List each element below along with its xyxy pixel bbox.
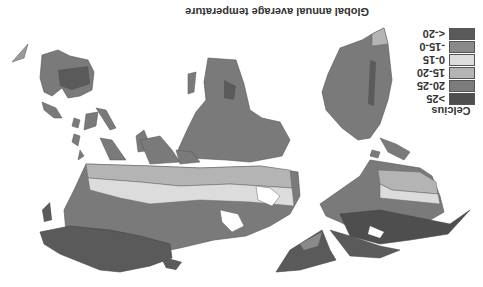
- legend-swatch: [449, 93, 475, 105]
- legend-label: -15-0: [395, 40, 445, 53]
- legend-swatch: [449, 80, 475, 92]
- eurasia-region: [40, 164, 300, 272]
- greenland-region: [276, 230, 336, 272]
- legend-unit-label: Celcius: [426, 105, 476, 117]
- legend-item-0-to-15: 0-15: [383, 54, 475, 66]
- legend-swatch: [449, 67, 475, 79]
- legend-swatch: [449, 28, 475, 40]
- legend-swatch: [449, 41, 475, 53]
- legend-item-minus-15-to-0: -15-0: [383, 41, 475, 53]
- north-america-region: [320, 160, 470, 258]
- legend-swatch: [449, 54, 475, 66]
- map-title: Global annual average temperature: [172, 4, 382, 20]
- africa-region: [178, 58, 290, 162]
- australia-region: [12, 44, 94, 98]
- legend-label: <-20: [395, 27, 445, 40]
- central-america-region: [370, 138, 410, 160]
- legend-item-15-to-20: 15-20: [383, 67, 475, 79]
- legend-item-20-to-25: 20-25: [383, 80, 475, 92]
- legend-label: 0-15: [395, 53, 445, 66]
- legend-label: >25: [395, 92, 445, 105]
- south-america-region: [322, 28, 392, 140]
- southeast-asia-islands: [42, 102, 152, 160]
- legend-label: 20-25: [395, 79, 445, 92]
- legend-item-below-minus-20: <-20: [383, 28, 475, 40]
- legend-item-above-25: >25: [383, 93, 475, 105]
- legend-label: 15-20: [395, 66, 445, 79]
